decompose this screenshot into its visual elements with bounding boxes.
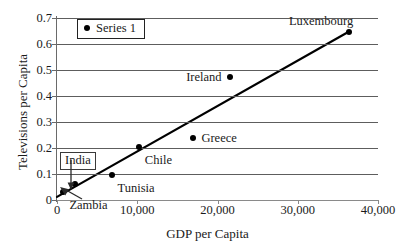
- legend-label: Series 1: [96, 22, 136, 35]
- y-tick-label: 0.6: [36, 38, 52, 51]
- x-tick-label: 30,000: [281, 204, 315, 217]
- gridline: [57, 44, 378, 45]
- chart-legend: Series 1: [77, 19, 145, 39]
- plot-area: [57, 18, 378, 200]
- point-label: Greece: [201, 132, 236, 145]
- point-label: Ireland: [186, 70, 221, 83]
- point-label: Zambia: [69, 199, 107, 212]
- x-tick-mark: [218, 200, 219, 204]
- data-point: [346, 29, 352, 35]
- y-tick-label: 0.5: [36, 64, 52, 77]
- point-label: Tunisia: [118, 182, 155, 195]
- y-tick-mark: [52, 122, 57, 123]
- data-point: [227, 74, 233, 80]
- gridline: [57, 122, 378, 123]
- gridline: [57, 174, 378, 175]
- x-axis-title: GDP per Capita: [0, 226, 415, 242]
- y-tick-mark: [52, 174, 57, 175]
- x-tick-label: 20,000: [200, 204, 234, 217]
- gridline: [57, 96, 378, 97]
- scatter-chart: 00.10.20.30.40.50.60.7 Series 1 India GD…: [0, 0, 415, 250]
- data-point: [109, 172, 115, 178]
- y-tick-label: 0.3: [36, 116, 52, 129]
- x-tick-mark: [137, 200, 138, 204]
- trend-line: [57, 18, 378, 200]
- y-tick-mark: [52, 96, 57, 97]
- gridline: [57, 148, 378, 149]
- x-tick-mark: [378, 200, 379, 204]
- y-tick-label: 0.4: [36, 90, 52, 103]
- point-label: Chile: [145, 154, 172, 167]
- y-tick-label: 0.1: [36, 168, 52, 181]
- y-tick-mark: [52, 148, 57, 149]
- y-tick-mark: [52, 70, 57, 71]
- y-tick-mark: [52, 18, 57, 19]
- y-tick-mark: [52, 44, 57, 45]
- point-label: Luxembourg: [289, 14, 353, 27]
- x-tick-mark: [57, 200, 58, 204]
- x-tick-mark: [298, 200, 299, 204]
- x-tick-label: 0: [54, 204, 60, 217]
- y-tick-label: 0.2: [36, 142, 52, 155]
- y-axis-title: Televisions per Capita: [15, 27, 31, 197]
- x-tick-label: 40,000: [361, 204, 395, 217]
- y-tick-label: 0.7: [36, 12, 52, 25]
- legend-marker-icon: [84, 25, 90, 31]
- x-tick-label: 10,000: [120, 204, 154, 217]
